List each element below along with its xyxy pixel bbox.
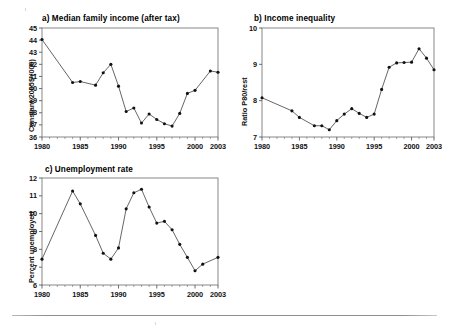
svg-text:39: 39 bbox=[29, 96, 37, 105]
svg-text:2000: 2000 bbox=[403, 142, 419, 151]
svg-text:36: 36 bbox=[29, 133, 37, 142]
plot-area-a: 3637383940414243444519801985199019952000… bbox=[0, 14, 230, 164]
svg-text:1985: 1985 bbox=[291, 142, 307, 151]
svg-text:8: 8 bbox=[33, 245, 37, 254]
svg-text:10: 10 bbox=[249, 24, 257, 33]
svg-text:2000: 2000 bbox=[187, 290, 203, 299]
svg-text:12: 12 bbox=[29, 174, 37, 183]
svg-text:2003: 2003 bbox=[210, 290, 226, 299]
svg-text:9: 9 bbox=[253, 60, 257, 69]
plot-area-b: 78910198019851990199520002003 bbox=[222, 14, 449, 164]
svg-text:1985: 1985 bbox=[72, 142, 88, 151]
svg-text:1990: 1990 bbox=[110, 290, 126, 299]
svg-text:41: 41 bbox=[29, 72, 37, 81]
svg-text:1980: 1980 bbox=[254, 142, 270, 151]
svg-text:1985: 1985 bbox=[72, 290, 88, 299]
svg-text:1980: 1980 bbox=[34, 290, 50, 299]
svg-text:38: 38 bbox=[29, 108, 37, 117]
svg-text:11: 11 bbox=[29, 191, 37, 200]
scan-speck bbox=[25, 8, 26, 11]
chart-svg-a: 3637383940414243444519801985199019952000… bbox=[0, 14, 230, 164]
svg-text:1995: 1995 bbox=[149, 290, 165, 299]
svg-text:10: 10 bbox=[29, 209, 37, 218]
svg-text:37: 37 bbox=[29, 120, 37, 129]
svg-text:8: 8 bbox=[253, 96, 257, 105]
chart-svg-c: 6789101112198019851990199520002003 bbox=[0, 165, 230, 310]
svg-text:40: 40 bbox=[29, 84, 37, 93]
svg-text:44: 44 bbox=[29, 36, 38, 45]
svg-text:1990: 1990 bbox=[110, 142, 126, 151]
svg-text:2000: 2000 bbox=[187, 142, 203, 151]
svg-text:43: 43 bbox=[29, 48, 37, 57]
svg-text:1990: 1990 bbox=[329, 142, 345, 151]
bottom-divider-rule bbox=[12, 315, 437, 316]
chart-svg-b: 78910198019851990199520002003 bbox=[222, 14, 449, 164]
scan-speck bbox=[155, 322, 156, 325]
chart-panel-income-inequality: b) Income inequality Ratio P80/rest 7891… bbox=[222, 14, 449, 164]
svg-text:9: 9 bbox=[33, 227, 37, 236]
chart-panel-unemployment-rate: c) Unemployment rate Percent unemployed … bbox=[0, 165, 230, 310]
svg-text:1995: 1995 bbox=[149, 142, 165, 151]
svg-text:1980: 1980 bbox=[34, 142, 50, 151]
svg-text:42: 42 bbox=[29, 60, 37, 69]
chart-panel-median-family-income: a) Median family income (after tax) Cons… bbox=[0, 14, 230, 164]
svg-text:45: 45 bbox=[29, 24, 37, 33]
svg-text:2003: 2003 bbox=[426, 142, 442, 151]
plot-area-c: 6789101112198019851990199520002003 bbox=[0, 165, 230, 310]
svg-text:7: 7 bbox=[33, 263, 37, 272]
svg-text:7: 7 bbox=[253, 133, 257, 142]
svg-text:6: 6 bbox=[33, 281, 37, 290]
svg-text:1995: 1995 bbox=[366, 142, 382, 151]
